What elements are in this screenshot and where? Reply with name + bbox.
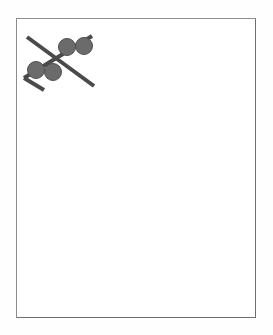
circle-upper-right (76, 38, 93, 55)
page-canvas: crossed strokes with four filled circles… (0, 0, 273, 335)
sketch-drawing (20, 30, 104, 94)
circle-upper-left (59, 39, 76, 56)
sketch-svg (20, 30, 104, 94)
stroke-lower-tail-line (24, 78, 44, 90)
circle-lower-left (28, 62, 45, 79)
circle-lower-right (45, 64, 62, 81)
